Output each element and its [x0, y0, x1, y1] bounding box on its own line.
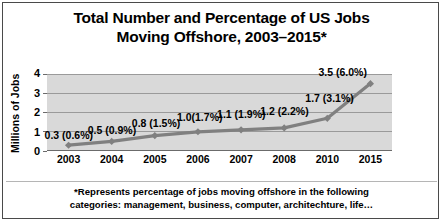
x-tick-2006: 2006	[186, 153, 209, 165]
data-label-2005: 0.8 (1.5%)	[132, 117, 180, 129]
y-tick-2: 2	[34, 106, 40, 118]
data-label-2004: 0.5 (0.9%)	[88, 124, 136, 136]
footnote-line-1: *Represents percentage of jobs moving of…	[3, 185, 440, 198]
y-axis-label: Millions of Jobs	[9, 73, 25, 153]
data-label-2010: 1.7 (3.1%)	[305, 92, 353, 104]
x-tick-2005: 2005	[143, 153, 166, 165]
y-tick-1: 1	[34, 126, 40, 138]
x-tick-2015: 2015	[359, 153, 382, 165]
chart-frame: Total Number and Percentage of US Jobs M…	[2, 2, 439, 219]
footnote-divider	[6, 181, 437, 182]
x-tick-2004: 2004	[100, 153, 123, 165]
y-tick-4: 4	[34, 67, 40, 79]
x-axis-ticks: 2003 2004 2005 2006 2007 2008 2010 2015	[47, 153, 392, 169]
footnote-line-2: categories: management, business, comput…	[3, 198, 440, 211]
chart-title-line-2: Moving Offshore, 2003–2015*	[3, 27, 440, 46]
data-label-2007: 1.1 (1.9%)	[217, 108, 265, 120]
x-tick-2010: 2010	[316, 153, 339, 165]
y-tick-3: 3	[34, 87, 40, 99]
y-axis-ticks: 4 3 2 1 0	[25, 73, 43, 151]
data-label-2006: 1.0(1.7%)	[177, 111, 223, 123]
y-tickmark-0	[43, 151, 47, 152]
data-point-marker	[65, 142, 72, 149]
x-tick-2008: 2008	[273, 153, 296, 165]
x-tick-2003: 2003	[57, 153, 80, 165]
chart-title: Total Number and Percentage of US Jobs M…	[3, 8, 440, 46]
data-label-2008: 1.2 (2.2%)	[260, 105, 308, 117]
data-point-marker	[281, 124, 288, 131]
data-point-marker	[151, 132, 158, 139]
data-label-2015: 3.5 (6.0%)	[318, 66, 366, 78]
data-point-marker	[194, 128, 201, 135]
y-tick-0: 0	[34, 145, 40, 157]
data-label-2003: 0.3 (0.6%)	[45, 129, 93, 141]
x-tick-2007: 2007	[229, 153, 252, 165]
chart-footnote: *Represents percentage of jobs moving of…	[3, 185, 440, 211]
chart-title-line-1: Total Number and Percentage of US Jobs	[3, 8, 440, 27]
data-point-marker	[108, 138, 115, 145]
data-point-marker	[237, 126, 244, 133]
